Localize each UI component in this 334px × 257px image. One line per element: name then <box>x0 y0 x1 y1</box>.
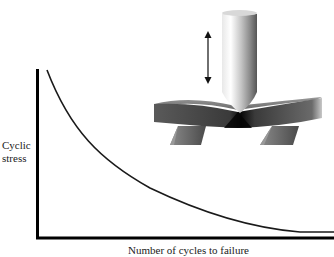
y-axis-label-line2: stress <box>2 152 31 165</box>
y-axis-label: Cyclic stress <box>2 139 31 165</box>
plunger <box>222 10 257 113</box>
bidirectional-arrow-icon <box>205 31 212 84</box>
right-support <box>260 126 299 145</box>
sn-curve <box>47 70 334 232</box>
left-support <box>170 126 206 145</box>
y-axis-label-line1: Cyclic <box>2 139 31 152</box>
x-axis-label: Number of cycles to failure <box>128 244 249 257</box>
